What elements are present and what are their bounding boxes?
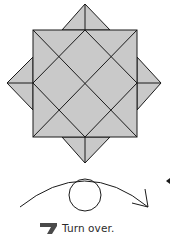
flap-top [62, 4, 110, 30]
flap-left [7, 57, 33, 110]
flap-right [137, 57, 161, 110]
step-marker-icon [40, 223, 57, 234]
step-caption: Turn over. [40, 222, 114, 234]
origami-diagram [0, 0, 170, 237]
turn-over-arrow-icon [20, 179, 148, 211]
caption-text: Turn over. [62, 222, 114, 234]
paper-square [33, 30, 137, 137]
flap-bottom [62, 137, 110, 163]
next-diagram-arrow-fragment [166, 178, 170, 184]
